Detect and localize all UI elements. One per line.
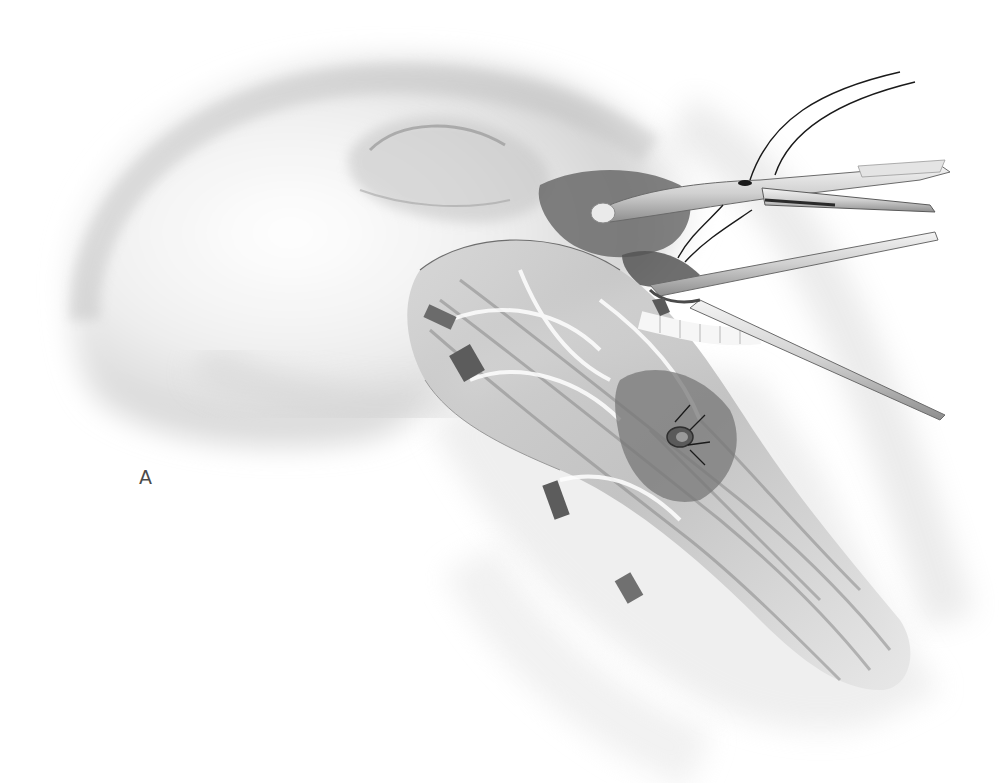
figure-label: A	[139, 466, 152, 488]
surgical-illustration: A	[0, 0, 1004, 783]
illustration-svg	[0, 0, 1004, 783]
